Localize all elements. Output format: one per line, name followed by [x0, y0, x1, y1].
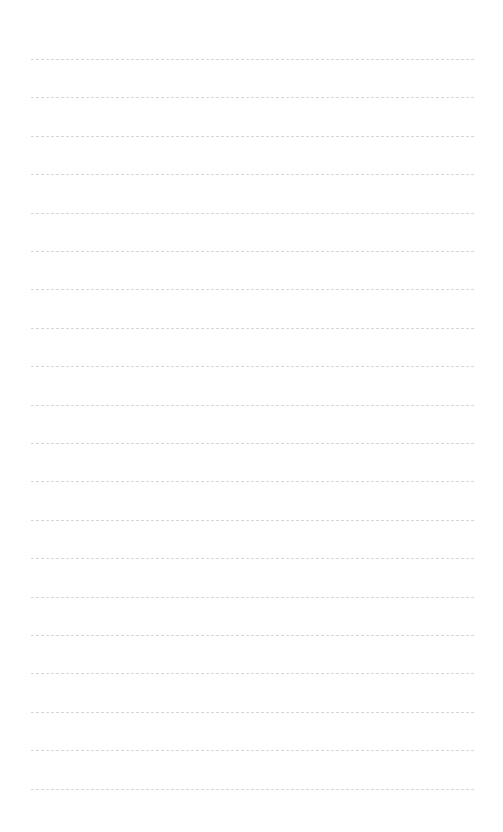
ruled-line	[31, 597, 474, 598]
ruled-line	[31, 750, 474, 751]
ruled-line	[31, 673, 474, 674]
ruled-line	[31, 481, 474, 482]
ruled-line	[31, 443, 474, 444]
ruled-line	[31, 289, 474, 290]
ruled-line	[31, 789, 474, 790]
ruled-line	[31, 405, 474, 406]
ruled-line	[31, 213, 474, 214]
ruled-line	[31, 251, 474, 252]
ruled-line	[31, 136, 474, 137]
ruled-line	[31, 712, 474, 713]
ruled-line	[31, 328, 474, 329]
lined-paper-page	[0, 0, 503, 832]
ruled-line	[31, 174, 474, 175]
ruled-line	[31, 558, 474, 559]
ruled-line	[31, 635, 474, 636]
ruled-line	[31, 520, 474, 521]
ruled-line	[31, 59, 474, 60]
ruled-line	[31, 366, 474, 367]
ruled-line	[31, 97, 474, 98]
